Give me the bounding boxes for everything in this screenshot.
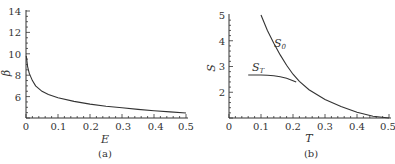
y-tick-label: 3 [219, 61, 225, 72]
x-tick-label: 0.5 [380, 121, 395, 132]
x-tick-label: 0.3 [115, 121, 131, 132]
x-tick-label: 0.2 [285, 121, 301, 132]
x-axis-label-a: E [100, 133, 109, 146]
y-tick-label: 10 [8, 49, 21, 60]
chart-b: 5 4 3 2 0 0.1 0.2 0.3 0.4 0.5 S T (b) S0… [205, 10, 395, 159]
y-tick-label: 14 [8, 6, 21, 17]
y-tick-label: 2 [219, 87, 225, 98]
x-tick-label: 0.1 [253, 121, 269, 132]
y-tick-label: 6 [15, 92, 21, 103]
x-tick-label: 0.4 [349, 121, 365, 132]
st-label: ST [252, 61, 266, 75]
chart-a: 14 12 10 8 6 0 0.1 0.2 0.3 0.4 0.5 β E (… [0, 6, 194, 160]
y-axis-label-b: S [205, 64, 218, 72]
x-tick-label: 0.4 [148, 121, 164, 132]
x-tick-label: 0.5 [178, 121, 194, 132]
x-tick-label: 0.2 [83, 121, 99, 132]
s0-label: S0 [274, 37, 287, 51]
ticks-a [26, 11, 186, 118]
figure: 14 12 10 8 6 0 0.1 0.2 0.3 0.4 0.5 β E (… [0, 0, 395, 164]
y-tick-label: 12 [8, 27, 21, 38]
x-tick-label: 0 [23, 121, 29, 132]
y-tick-label: 5 [219, 10, 225, 21]
x-axis-label-b: T [305, 132, 314, 145]
s0-curve [261, 15, 389, 118]
x-tick-label: 0 [226, 121, 232, 132]
y-axis-label-a: β [0, 70, 13, 77]
y-tick-label: 8 [15, 70, 21, 81]
beta-curve [26, 56, 186, 113]
y-tick-label: 4 [219, 36, 225, 47]
x-tick-label: 0.1 [50, 121, 66, 132]
x-tick-label: 0.3 [317, 121, 333, 132]
st-curve [248, 75, 296, 82]
caption-a: (a) [98, 148, 112, 159]
caption-b: (b) [304, 148, 318, 159]
